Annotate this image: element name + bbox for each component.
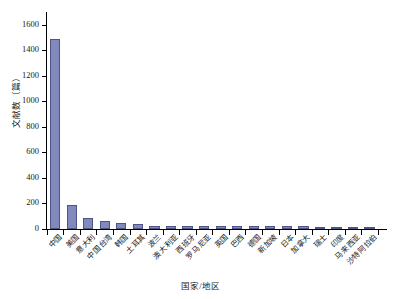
x-tick-label: 英国: [212, 232, 230, 250]
y-tick-label: 600: [26, 146, 39, 157]
bar: [149, 226, 159, 229]
y-tick-label: 200: [26, 197, 39, 208]
plot-area: 02004006008001000120014001600: [46, 12, 387, 230]
y-tick-mark: [42, 178, 47, 179]
y-tick-mark: [42, 25, 47, 26]
bar: [182, 226, 192, 229]
y-tick-label: 1000: [22, 95, 39, 106]
y-axis-line: [46, 12, 47, 230]
bar: [166, 226, 176, 229]
bar: [364, 227, 374, 229]
y-tick-mark: [42, 127, 47, 128]
x-tick-label: 中国: [47, 232, 65, 250]
bar: [133, 224, 143, 229]
y-tick-mark: [42, 203, 47, 204]
bar: [199, 226, 209, 229]
bar: [116, 223, 126, 229]
y-tick-mark: [42, 152, 47, 153]
y-tick-mark: [42, 76, 47, 77]
bar: [298, 226, 308, 229]
bar: [83, 218, 93, 229]
bar: [50, 39, 60, 229]
y-tick-label: 1400: [22, 44, 39, 55]
y-tick-mark: [42, 50, 47, 51]
y-axis-title: 文献数（篇）: [12, 40, 21, 160]
bar-chart-figure: 文献数（篇） 02004006008001000120014001600 中国美…: [0, 0, 401, 299]
bar: [265, 226, 275, 229]
y-tick-label: 400: [26, 172, 39, 183]
bar: [216, 226, 226, 229]
y-tick-label: 1600: [22, 19, 39, 30]
bar: [331, 227, 341, 229]
bar: [100, 221, 110, 229]
x-axis-label-layer: 中国美国意大利中国台湾韩国土耳其波兰澳大利亚西班牙罗马尼亚英国巴西德国新加坡日本…: [46, 232, 387, 282]
bar: [249, 226, 259, 229]
x-tick-label: 巴西: [229, 232, 247, 250]
bar: [315, 227, 325, 229]
y-tick-label: 0: [35, 223, 39, 234]
y-tick-mark: [42, 101, 47, 102]
bar: [282, 226, 292, 229]
y-tick-label: 800: [26, 121, 39, 132]
bar: [348, 227, 358, 229]
y-tick-label: 1200: [22, 70, 39, 81]
bar: [67, 205, 77, 229]
x-axis-title: 国家/地区: [0, 281, 401, 292]
x-tick-label: 瑞士: [312, 232, 330, 250]
bar: [232, 226, 242, 229]
